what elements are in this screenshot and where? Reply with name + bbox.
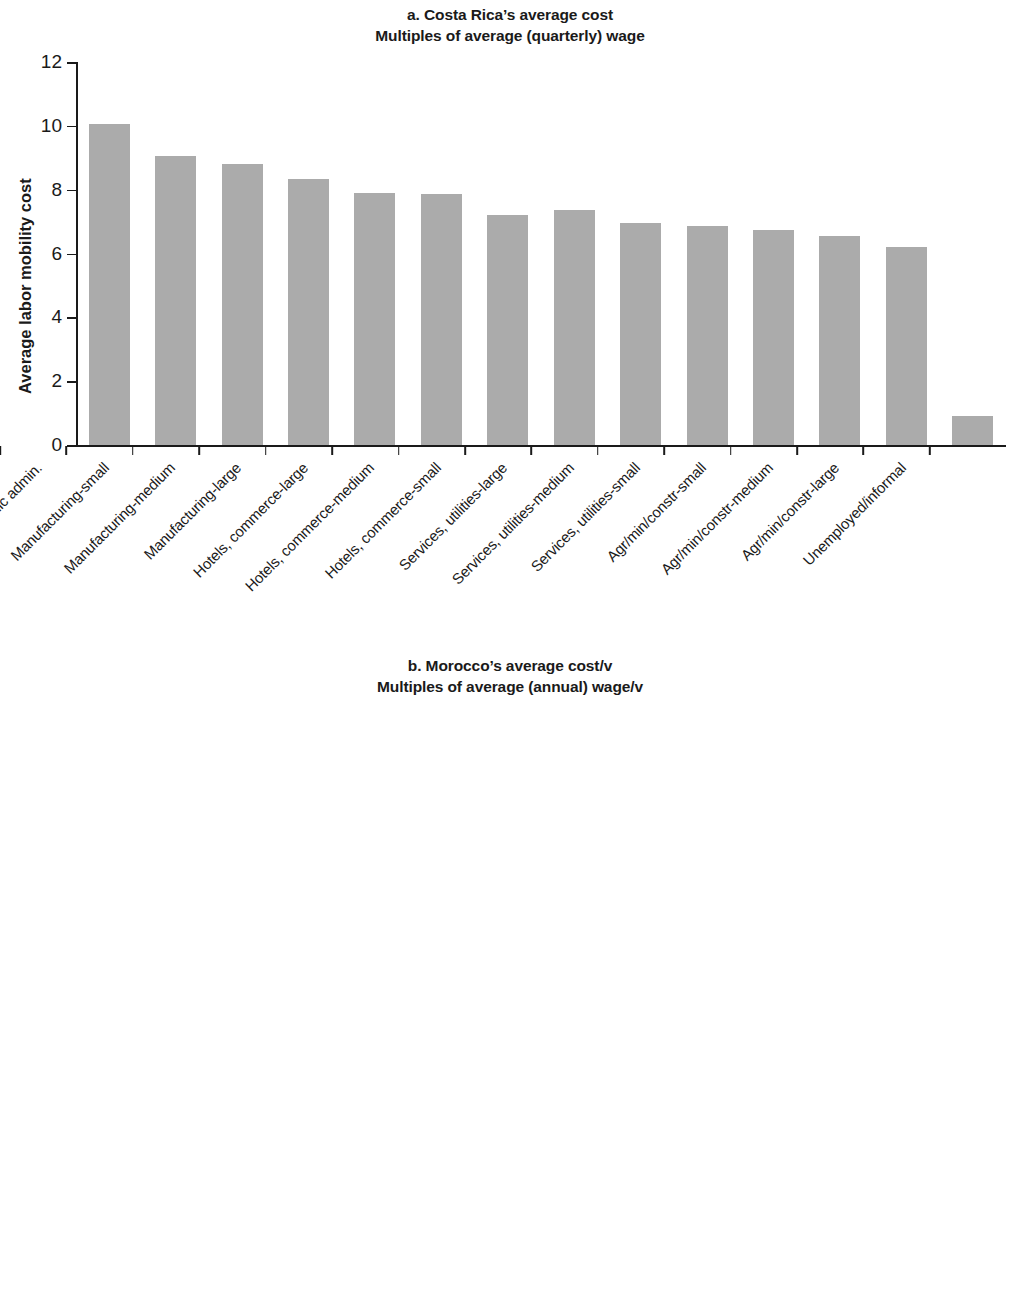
x-tick-slot: [531, 446, 597, 455]
x-axis-category-label: Hotels, commerce-medium: [242, 459, 377, 594]
x-tick-slot: [133, 446, 199, 455]
x-tick-slot: [863, 446, 929, 455]
y-tick-mark: [67, 317, 76, 319]
x-tick-slot: [664, 446, 730, 455]
x-tick-slot: [66, 446, 132, 455]
y-tick-label: 10: [41, 115, 62, 137]
panel-a-title-line1: a. Costa Rica’s average cost: [0, 4, 1020, 25]
x-axis-category-label: Services, utilities-medium: [448, 459, 577, 588]
bar-slot: [740, 62, 806, 445]
x-tick-mark: [663, 446, 665, 455]
x-axis-category-label: Agr/min/constr-medium: [657, 459, 776, 578]
x-axis-category-label: Services, utilities-large: [396, 459, 511, 574]
bar: [222, 164, 263, 445]
panel-morocco: b. Morocco’s average cost/v Multiples of…: [0, 651, 1020, 1302]
x-tick-mark: [796, 446, 798, 455]
bar-slot: [541, 62, 607, 445]
y-tick-label: 8: [51, 179, 62, 201]
bar: [687, 226, 728, 445]
x-axis-category-label: Services, utilities-small: [527, 459, 643, 575]
x-tick-mark: [331, 446, 333, 455]
bar-slot: [275, 62, 341, 445]
x-tick-mark: [398, 446, 400, 455]
panel-a-x-axis-ticks: [0, 446, 930, 455]
panel-a-title: a. Costa Rica’s average cost Multiples o…: [0, 0, 1020, 46]
y-tick-label: 4: [51, 306, 62, 328]
x-tick-mark: [531, 446, 533, 455]
x-tick-slot: [731, 446, 797, 455]
panel-b-title-line1: b. Morocco’s average cost/v: [0, 655, 1020, 676]
x-tick-slot: [0, 446, 66, 455]
x-tick-mark: [464, 446, 466, 455]
bar: [354, 193, 395, 445]
bar-slot: [475, 62, 541, 445]
bar-slot: [408, 62, 474, 445]
y-tick-label: 12: [41, 51, 62, 73]
bar: [952, 416, 993, 445]
x-tick-slot: [199, 446, 265, 455]
x-tick-slot: [797, 446, 863, 455]
bar-slot: [807, 62, 873, 445]
bar: [620, 223, 661, 445]
bar: [89, 124, 130, 445]
x-tick-mark: [265, 446, 267, 455]
y-tick-mark: [67, 381, 76, 383]
x-tick-mark: [730, 446, 732, 455]
x-tick-mark: [66, 446, 68, 455]
bar: [155, 156, 196, 445]
x-axis-category-label: Manufacturing-medium: [60, 459, 178, 577]
panel-a-title-line2: Multiples of average (quarterly) wage: [0, 25, 1020, 46]
x-axis-category-label: Hotels, commerce-large: [189, 459, 311, 581]
x-tick-mark: [132, 446, 134, 455]
bar: [421, 194, 462, 445]
panel-b-title: b. Morocco’s average cost/v Multiples of…: [0, 651, 1020, 697]
x-tick-mark: [597, 446, 599, 455]
panel-b-title-line2: Multiples of average (annual) wage/v: [0, 676, 1020, 697]
y-tick-mark: [67, 126, 76, 128]
bar: [554, 210, 595, 445]
x-tick-slot: [266, 446, 332, 455]
panel-a-plot-area: 024681012: [76, 62, 1006, 445]
bar: [288, 179, 329, 446]
y-tick-label: 6: [51, 243, 62, 265]
x-tick-mark: [198, 446, 200, 455]
bar-slot: [342, 62, 408, 445]
x-axis-category-label: Hotels, commerce-small: [321, 459, 444, 582]
x-tick-slot: [465, 446, 531, 455]
x-tick-mark: [0, 446, 1, 455]
x-tick-slot: [332, 446, 398, 455]
y-tick-label: 2: [51, 370, 62, 392]
panel-a-y-axis-label: Average labor mobility cost: [16, 178, 35, 394]
panel-costa-rica: a. Costa Rica’s average cost Multiples o…: [0, 0, 1020, 651]
y-tick-mark: [67, 62, 76, 64]
bar: [487, 215, 528, 445]
bar: [886, 247, 927, 445]
x-tick-slot: [399, 446, 465, 455]
bar-slot: [142, 62, 208, 445]
x-tick-slot: [598, 446, 664, 455]
bar-slot: [873, 62, 939, 445]
bar: [819, 236, 860, 445]
y-tick-mark: [67, 190, 76, 192]
bar-slot: [939, 62, 1005, 445]
bar-slot: [76, 62, 142, 445]
y-tick-mark: [67, 254, 76, 256]
bar-slot: [607, 62, 673, 445]
panel-a-bars: [76, 62, 1006, 445]
bar-slot: [674, 62, 740, 445]
bar: [753, 230, 794, 445]
x-tick-mark: [863, 446, 865, 455]
x-tick-mark: [929, 446, 931, 455]
bar-slot: [209, 62, 275, 445]
